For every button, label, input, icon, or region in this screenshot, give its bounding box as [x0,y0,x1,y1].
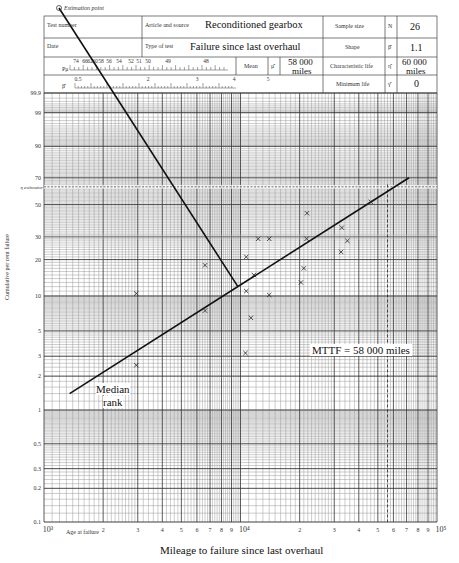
x-tick-label: 2 [298,527,301,533]
y-tick-label: 20 [35,257,41,263]
char-life-unit: miles [406,66,426,76]
estimation-point-label: Estimation point [64,5,104,11]
x-tick-label: 6 [392,527,395,533]
pu-scale: 746662605856545251504948 [70,58,228,70]
article-label: Article and source [145,22,189,28]
beta-scale-symbol: β̂ [62,83,65,89]
x-tick-label: 4 [161,527,164,533]
grid-major [44,93,437,522]
x-tick-label: 5 [376,527,379,533]
x-tick-label: 7 [209,527,212,533]
y-tick-label: 0.3 [34,466,42,472]
svg-text:0.5: 0.5 [75,76,82,82]
svg-text:74: 74 [73,58,79,64]
test-number-label: Test number [47,22,77,28]
svg-text:52: 52 [128,58,134,64]
y-tick-label: 3 [38,353,41,359]
svg-text:48: 48 [203,58,209,64]
x-tick-label: 8 [416,527,419,533]
y-tick-label: 99.9 [31,90,42,96]
mean-symbol: μ̂ [271,63,274,69]
y-tick-label: 99 [35,110,41,116]
x-tick-label: 10³ [43,525,54,534]
svg-text:50: 50 [145,58,151,64]
svg-text:3: 3 [196,76,199,82]
data-point [249,316,253,320]
y-tick-label: 0.1 [34,519,42,525]
article-value: Reconditioned gearbox [205,19,303,30]
y-tick-label: 0.2 [34,485,42,491]
eta-estimator-label: η estimator [20,185,43,190]
sample-size-symbol: N [388,23,392,29]
x-tick-label: 3 [333,527,336,533]
svg-text:5: 5 [267,76,270,82]
median-rank-label-2: rank [103,396,123,408]
svg-text:51: 51 [136,58,142,64]
age-at-failure-label: Age at failure [66,529,99,535]
x-tick-label: 9 [427,527,430,533]
y-tick-label: 0.5 [34,441,42,447]
x-tick-label: 2 [102,527,105,533]
sample-size-label: Sample size [335,23,364,29]
x-tick-label: 10⁴ [239,525,250,534]
svg-text:58: 58 [98,58,104,64]
x-tick-label: 4 [357,527,360,533]
shape-symbol: β̂ [388,44,391,50]
test-type-value: Failure since last overhaul [190,41,301,52]
mean-unit: miles [292,66,312,76]
x-tick-label: 10⁵ [436,525,447,534]
y-axis-label: Cumulative per cent failure [4,234,10,300]
min-life-symbol: γ̂ [388,81,391,87]
shape-label: Shape [345,44,360,50]
x-tick-label: 9 [230,527,233,533]
mean-label: Mean [244,63,258,69]
y-tick-label: 10 [35,293,41,299]
x-tick-label: 6 [195,527,198,533]
x-tick-label: 8 [220,527,223,533]
min-life-value: 0 [414,78,419,89]
x-axis-label: Mileage to failure since last overhaul [160,544,323,556]
x-tick-label: 5 [180,527,183,533]
svg-text:56: 56 [106,58,112,64]
test-type-label: Type of test [145,43,173,49]
y-tick-label: 30 [35,234,41,240]
mttf-annotation: MTTF = 58 000 miles [310,344,412,356]
svg-text:4: 4 [233,76,236,82]
y-tick-label: 70 [35,175,41,181]
y-tick-label: 1 [38,407,41,413]
svg-text:2: 2 [147,76,150,82]
char-life-label: Characteristic life [330,63,373,69]
min-life-label: Minimum life [336,81,370,87]
shape-value: 1.1 [410,42,423,53]
y-tick-label: 5 [38,328,41,334]
sample-size-value: 26 [410,21,420,32]
svg-text:49: 49 [165,58,171,64]
char-life-symbol: η̂ [388,63,391,69]
x-tick-label: 7 [405,527,408,533]
x-tick-label: 3 [136,527,139,533]
date-label: Date [47,43,58,49]
pu-label: Pμ [62,66,69,72]
svg-text:54: 54 [116,58,122,64]
y-tick-label: 50 [35,202,41,208]
median-rank-label-1: Median [96,383,130,395]
y-tick-label: 90 [35,143,41,149]
y-tick-label: 2 [38,373,41,379]
